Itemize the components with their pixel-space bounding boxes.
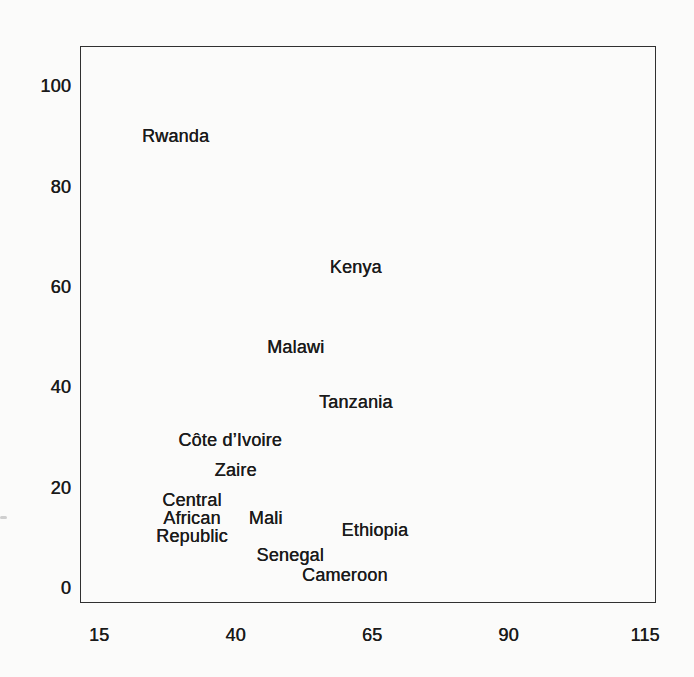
data-point-label-tanzania: Tanzania [319,393,393,411]
y-tick-label: 0 [61,577,71,598]
data-point-label-cameroon: Cameroon [302,566,388,584]
x-tick-label: 15 [89,625,109,646]
x-tick-label: 90 [498,625,518,646]
data-point-label-mali: Mali [249,509,283,527]
data-point-label-central-african-republic: Central African Republic [156,491,228,545]
x-tick-label: 40 [225,625,245,646]
y-tick-label: 60 [51,276,71,297]
data-point-label-kenya: Kenya [330,258,382,276]
data-point-label-malawi: Malawi [267,338,324,356]
x-tick-label: 115 [630,625,659,646]
scan-artifact [0,516,7,519]
data-point-label-c-te-d-ivoire: Côte d’Ivoire [178,431,282,449]
data-point-label-zaire: Zaire [215,461,257,479]
data-point-label-rwanda: Rwanda [142,127,209,145]
x-tick-label: 65 [362,625,382,646]
y-tick-label: 40 [51,377,71,398]
data-point-label-senegal: Senegal [256,546,323,564]
y-tick-label: 20 [51,477,71,498]
y-tick-label: 80 [51,176,71,197]
data-point-label-ethiopia: Ethiopia [341,521,408,539]
y-tick-label: 100 [40,76,71,97]
scatter-figure: 020406080100 15406590115 RwandaKenyaMala… [0,0,694,677]
